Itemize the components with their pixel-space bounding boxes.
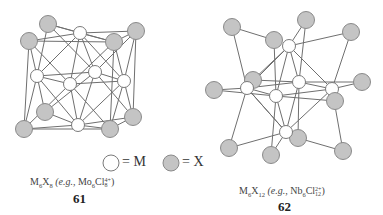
caption-61: M6X8 (e.g., Mo6Cl4+8)	[30, 176, 114, 189]
x-atom	[266, 32, 283, 49]
m-atom	[31, 70, 44, 83]
x-atom	[298, 12, 315, 29]
x-atom	[206, 82, 223, 99]
legend-m-label: = M	[122, 154, 146, 170]
x-atom	[327, 93, 344, 110]
cluster-62	[206, 12, 371, 164]
m-atom	[283, 40, 296, 53]
x-atom	[106, 34, 123, 51]
legend-m-circle-icon	[103, 155, 119, 171]
x-atoms-62-front	[206, 74, 371, 164]
x-atom	[102, 121, 119, 138]
m-atoms-62	[241, 40, 339, 103]
m-atom	[64, 78, 77, 91]
x-atom	[21, 33, 38, 50]
m-atom	[74, 27, 87, 40]
m-atom	[280, 126, 293, 139]
x-atom	[40, 16, 57, 33]
x-atom	[128, 23, 145, 40]
m-atom	[241, 82, 254, 95]
cluster-61	[16, 16, 145, 138]
x-atom	[263, 147, 280, 164]
legend-x-label: = X	[182, 154, 204, 170]
x-atom	[125, 109, 142, 126]
structure-number-62: 62	[278, 199, 291, 215]
x-atom	[16, 121, 33, 138]
m-atom	[270, 90, 283, 103]
structure-number-61: 61	[73, 191, 86, 207]
m-atom	[118, 75, 131, 88]
caption-62: M6X12 (e.g., Nb6Cl2+12)	[239, 185, 325, 198]
x-atom	[354, 74, 371, 91]
legend-x-circle-icon	[163, 155, 179, 171]
x-atom	[221, 140, 238, 157]
x-atom	[335, 143, 352, 160]
x-atom	[37, 104, 54, 121]
m-atom	[293, 76, 306, 89]
m-atom	[72, 119, 85, 132]
m-atom	[89, 66, 102, 79]
x-atom	[224, 19, 241, 36]
x-atom	[343, 24, 360, 41]
